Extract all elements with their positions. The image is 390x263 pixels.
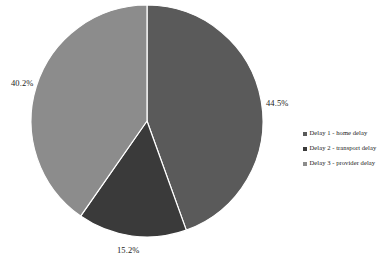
legend-item-label: Delay 2 - transport delay xyxy=(310,145,377,152)
legend-swatch-icon xyxy=(303,162,307,166)
legend-item-delay-2[interactable]: Delay 2 - transport delay xyxy=(303,141,390,156)
legend-swatch-icon xyxy=(303,132,307,136)
chart-legend: Delay 1 - home delay Delay 2 - transport… xyxy=(303,126,390,171)
slice-data-label-delay-1: 44.5% xyxy=(266,98,288,108)
legend-item-delay-1[interactable]: Delay 1 - home delay xyxy=(303,126,390,141)
pie-slice-group xyxy=(31,5,263,237)
slice-data-label-delay-3: 40.2% xyxy=(11,78,33,88)
legend-item-label: Delay 3 - provider delay xyxy=(310,160,376,167)
legend-item-label: Delay 1 - home delay xyxy=(310,130,368,137)
legend-item-delay-3[interactable]: Delay 3 - provider delay xyxy=(303,156,390,171)
legend-swatch-icon xyxy=(303,147,307,151)
pie-chart: 40.2% 44.5% 15.2% Delay 1 - home delay D… xyxy=(0,0,390,263)
slice-data-label-delay-2: 15.2% xyxy=(117,245,139,255)
